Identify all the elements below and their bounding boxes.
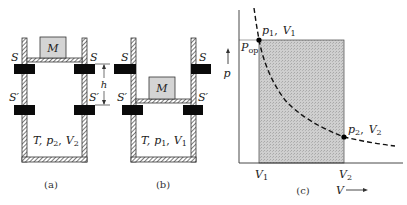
stop-s-prime-left-b — [122, 105, 143, 115]
cylinder-b-bottom — [131, 157, 196, 162]
stop-s-left-label-b: S — [121, 51, 129, 64]
point-2 — [341, 134, 346, 139]
stop-s-prime-left-a — [14, 105, 35, 115]
stop-s-prime-right-label-b: S′ — [198, 91, 209, 104]
mass-a-label: M — [46, 42, 59, 55]
point-1-label: p1,V1 — [262, 24, 296, 38]
x-axis-label: V — [336, 184, 345, 197]
state-b: T,p1,V1 — [141, 134, 187, 148]
pop-label: Pop — [240, 41, 258, 55]
y-axis-arrow — [226, 48, 230, 64]
piston-a — [27, 58, 82, 62]
stop-s-right-label-b: S — [199, 51, 207, 64]
stop-s-prime-right-a — [74, 105, 95, 115]
caption-b: (b) — [156, 179, 170, 190]
mass-b-label: M — [155, 82, 168, 95]
stop-s-prime-right-label-a: S′ — [89, 91, 100, 104]
cylinder-a-right-wall — [82, 38, 87, 162]
stop-s-right-a — [74, 64, 95, 74]
cylinder-a: M S S S′ S′ h T,p2,V2 (a) — [9, 37, 110, 190]
state-a: T,p2,V2 — [33, 134, 79, 148]
x-axis-arrow — [346, 188, 368, 192]
tick-v2: V2 — [339, 168, 352, 182]
caption-c: (c) — [296, 185, 310, 196]
stop-s-right-b — [191, 64, 211, 74]
pv-diagram: p1,V1 p2,V2 Pop p V1 V2 V (c) — [223, 8, 403, 197]
stop-s-left-a — [14, 64, 35, 74]
work-area — [259, 40, 344, 163]
cylinder-b-left-wall — [131, 38, 136, 162]
cylinder-a-bottom — [22, 157, 87, 162]
cylinder-b-right-wall — [191, 38, 196, 162]
caption-a: (a) — [44, 179, 58, 190]
stop-s-prime-right-b — [183, 105, 203, 115]
stop-s-prime-left-label-a: S′ — [9, 91, 20, 104]
point-2-label: p2,V2 — [348, 123, 382, 137]
stop-s-right-label-a: S — [90, 51, 98, 64]
thermo-figure: M S S S′ S′ h T,p2,V2 (a) M — [0, 0, 407, 205]
cylinder-b: M S S S′ S′ T,p1,V1 (b) — [114, 38, 211, 190]
tick-v1: V1 — [255, 168, 268, 182]
piston-b — [136, 99, 191, 103]
stop-s-left-b — [114, 64, 136, 74]
point-1 — [256, 37, 261, 42]
stop-s-prime-left-label-b: S′ — [117, 91, 128, 104]
cylinder-a-left-wall — [22, 38, 27, 162]
y-axis-label: p — [223, 67, 230, 80]
height-label: h — [101, 79, 107, 90]
stop-s-left-label-a: S — [11, 51, 19, 64]
